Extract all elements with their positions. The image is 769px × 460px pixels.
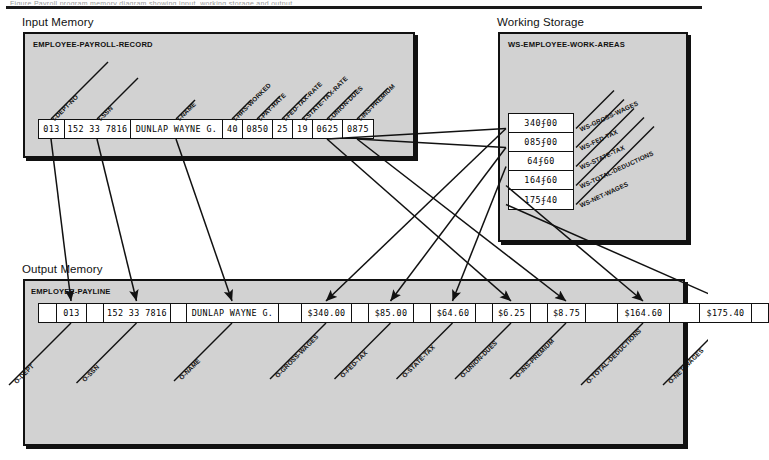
working-storage-boxes: 340ʄ00085ʄ0064ʄ60164ʄ60175ʄ40 <box>508 113 574 210</box>
input-cell-i-ssn: 152 33 7816 <box>65 120 131 138</box>
working-storage-caption: Working Storage <box>497 16 584 28</box>
output-cell-spacer-18 <box>670 304 700 322</box>
input-cell-i-state-tax-rate: 19 <box>293 120 313 138</box>
input-memory-caption: Input Memory <box>22 16 94 28</box>
output-cell-o-total-deductions: $164.60 <box>618 304 670 322</box>
output-cell-o-state-tax: $64.60 <box>431 304 476 322</box>
input-cell-i-fed-tax-rate: 25 <box>273 120 293 138</box>
output-cell-o-ins-premium: $8.75 <box>548 304 586 322</box>
input-cell-i-name: DUNLAP WAYNE G. <box>131 120 223 138</box>
output-cell-spacer-20 <box>752 304 768 322</box>
output-cell-o-dept: 013 <box>57 304 87 322</box>
top-cropped-caption: Figure Payroll program memory diagram sh… <box>10 0 700 5</box>
output-cell-o-union-dues: $6.25 <box>493 304 531 322</box>
input-cell-i-ins-premium: 0875 <box>343 120 373 138</box>
working-storage-record-name: WS-EMPLOYEE-WORK-AREAS <box>508 40 625 49</box>
output-cell-o-name: DUNLAP WAYNE G. <box>187 304 279 322</box>
output-cell-spacer-8 <box>352 304 369 322</box>
ws-box-ws-gross-wages: 340ʄ00 <box>509 114 573 133</box>
output-record-cells: 013152 33 7816DUNLAP WAYNE G.$340.00$85.… <box>38 303 769 323</box>
output-memory-caption: Output Memory <box>22 263 103 275</box>
input-record-name: EMPLOYEE-PAYROLL-RECORD <box>33 40 153 49</box>
ws-box-ws-fed-tax: 085ʄ00 <box>509 133 573 152</box>
output-cell-o-fed-tax: $85.00 <box>369 304 414 322</box>
input-record-cells: 013152 33 7816DUNLAP WAYNE G.40085025190… <box>38 119 374 139</box>
ws-box-ws-state-tax: 64ʄ60 <box>509 152 573 171</box>
output-cell-spacer-12 <box>476 304 493 322</box>
input-cell-i-hrs-worked: 40 <box>223 120 243 138</box>
output-record-name: EMPLOYEE-PAYLINE <box>31 287 111 296</box>
output-cell-o-ssn: 152 33 7816 <box>104 304 171 322</box>
output-cell-spacer-2 <box>87 304 104 322</box>
ws-box-ws-net-wages: 175ʄ40 <box>509 190 573 209</box>
input-cell-i-union-dues: 0625 <box>313 120 343 138</box>
input-cell-i-pay-rate: 0850 <box>243 120 273 138</box>
output-cell-spacer-6 <box>279 304 302 322</box>
output-cell-spacer-16 <box>586 304 618 322</box>
output-cell-o-gross-wages: $340.00 <box>302 304 352 322</box>
output-cell-spacer-4 <box>171 304 187 322</box>
ws-box-ws-total-deductions: 164ʄ60 <box>509 171 573 190</box>
output-cell-spacer-10 <box>414 304 431 322</box>
input-cell-i-dept-no: 013 <box>39 120 65 138</box>
output-cell-o-net-wages: $175.40 <box>700 304 752 322</box>
output-cell-spacer-14 <box>531 304 548 322</box>
output-cell-spacer-0 <box>39 304 57 322</box>
top-divider-rule <box>6 6 702 9</box>
